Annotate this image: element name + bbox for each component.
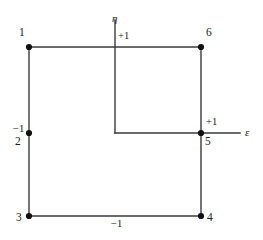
node-1-dot [26, 44, 32, 50]
node-6-dot [198, 44, 204, 50]
tick-label-eta-plus-one: +1 [118, 31, 129, 42]
tick-label-epsilon-plus-one: +1 [206, 117, 217, 128]
figure-canvas [0, 0, 263, 240]
reference-element-figure: η ε +1 +1 −1 −1 1 2 3 4 5 6 [0, 0, 263, 240]
node-4-label: 4 [207, 212, 213, 224]
node-3-dot [26, 213, 32, 219]
axis-eta-label: η [112, 13, 117, 24]
axis-epsilon-label: ε [245, 127, 249, 138]
node-6-label: 6 [206, 27, 212, 39]
tick-label-eta-minus-one: −1 [13, 124, 24, 135]
node-2-dot [26, 130, 32, 136]
node-4-dot [198, 213, 204, 219]
node-1-label: 1 [19, 27, 25, 39]
node-5-dot [198, 130, 204, 136]
tick-label-epsilon-minus-one: −1 [111, 219, 122, 230]
node-2-label: 2 [15, 136, 21, 148]
node-5-label: 5 [205, 136, 211, 148]
node-3-label: 3 [16, 212, 22, 224]
